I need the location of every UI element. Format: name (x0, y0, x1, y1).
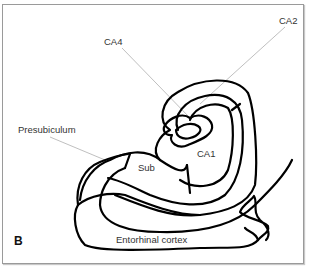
dentate-gyrus-inner (176, 124, 200, 139)
panel-label: B (14, 234, 23, 248)
outer-arc (115, 80, 256, 215)
label-presubiculum: Presubiculum (18, 124, 76, 135)
hippocampus-diagram: CA2 CA4 CA1 Presubiculum Sub Entorhinal … (0, 0, 309, 270)
label-ca2: CA2 (279, 15, 297, 26)
ca-layer-outer (108, 95, 243, 204)
ca4-pointer-line (122, 48, 190, 118)
label-ca1: CA1 (197, 148, 215, 159)
label-entorhinal-cortex: Entorhinal cortex (116, 234, 188, 245)
label-ca4: CA4 (104, 36, 122, 47)
ca2-pointer-line (200, 27, 285, 104)
subiculum-outer (80, 152, 187, 200)
label-subiculum: Sub (138, 162, 155, 173)
dentate-gyrus-outer (164, 116, 212, 147)
subiculum-boundary (125, 154, 130, 168)
ca1-boundary (187, 165, 190, 193)
presubiculum-pointer-line (50, 137, 105, 160)
